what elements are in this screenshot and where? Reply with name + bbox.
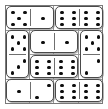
domino-tile-1-2[interactable]: [6, 79, 54, 102]
domino-half-right: [80, 7, 104, 30]
pip: [72, 84, 75, 87]
pip: [35, 66, 38, 69]
pip: [47, 60, 50, 63]
pip: [23, 23, 26, 26]
domino-tile-5-2[interactable]: [80, 30, 103, 78]
domino-tile-1-1[interactable]: [30, 30, 78, 53]
pip: [23, 35, 26, 38]
pip: [96, 90, 99, 93]
pip: [60, 84, 63, 87]
pip: [96, 84, 99, 87]
pip: [85, 35, 88, 38]
pip: [11, 47, 14, 50]
domino-half-left: [7, 7, 31, 30]
pip: [84, 90, 87, 93]
pip: [84, 17, 87, 20]
pip: [96, 11, 99, 14]
pip: [72, 11, 75, 14]
domino-half-right: [55, 56, 79, 79]
pip: [47, 84, 50, 87]
pip: [59, 66, 62, 69]
domino-half-right: [31, 80, 55, 103]
domino-half-left: [56, 7, 80, 30]
pip: [97, 47, 100, 50]
pip: [97, 59, 100, 62]
domino-half-bottom: [81, 55, 104, 79]
domino-half-top: [81, 31, 104, 55]
pip: [97, 35, 100, 38]
pip: [59, 72, 62, 75]
pip: [84, 96, 87, 99]
domino-half-right: [80, 80, 104, 103]
pip: [41, 17, 44, 20]
domino-tile-5-1[interactable]: [6, 6, 54, 29]
pip: [11, 23, 14, 26]
domino-half-left: [7, 80, 31, 103]
pip: [96, 23, 99, 26]
pip: [60, 90, 63, 93]
pip: [17, 17, 20, 20]
domino-tile-6-6-top[interactable]: [55, 6, 103, 29]
pip: [60, 96, 63, 99]
pip: [60, 11, 63, 14]
pip: [60, 17, 63, 20]
pip: [35, 72, 38, 75]
pip: [35, 96, 38, 99]
pip: [96, 96, 99, 99]
pip: [11, 35, 14, 38]
pip: [72, 90, 75, 93]
pip: [71, 72, 74, 75]
pip: [72, 17, 75, 20]
pip: [35, 60, 38, 63]
domino-board: Domino Grid Puzzle: [0, 0, 108, 109]
pip: [60, 23, 63, 26]
pip: [23, 11, 26, 14]
domino-half-top: [7, 31, 30, 55]
pip: [41, 41, 44, 44]
pip: [85, 47, 88, 50]
pip: [23, 59, 26, 62]
pip: [84, 23, 87, 26]
domino-tile-6-6-bottom[interactable]: [55, 79, 103, 102]
pip: [17, 65, 20, 68]
pip: [11, 71, 14, 74]
domino-half-left: [31, 31, 55, 54]
pip: [17, 41, 20, 44]
domino-half-right: [55, 31, 79, 54]
pip: [72, 96, 75, 99]
pip: [84, 11, 87, 14]
domino-half-right: [31, 7, 55, 30]
pip: [72, 23, 75, 26]
domino-half-bottom: [7, 55, 30, 79]
pip: [85, 71, 88, 74]
pip: [84, 84, 87, 87]
domino-half-left: [56, 80, 80, 103]
pip: [23, 47, 26, 50]
domino-half-left: [31, 56, 55, 79]
pip: [47, 72, 50, 75]
pip: [71, 66, 74, 69]
pip: [47, 66, 50, 69]
pip: [65, 41, 68, 44]
pip: [59, 60, 62, 63]
domino-tile-5-3[interactable]: [6, 30, 29, 78]
domino-tile-6-6-middle[interactable]: [30, 55, 78, 78]
pip: [17, 90, 20, 93]
pip: [96, 17, 99, 20]
pip: [91, 41, 94, 44]
pip: [11, 11, 14, 14]
pip: [71, 60, 74, 63]
